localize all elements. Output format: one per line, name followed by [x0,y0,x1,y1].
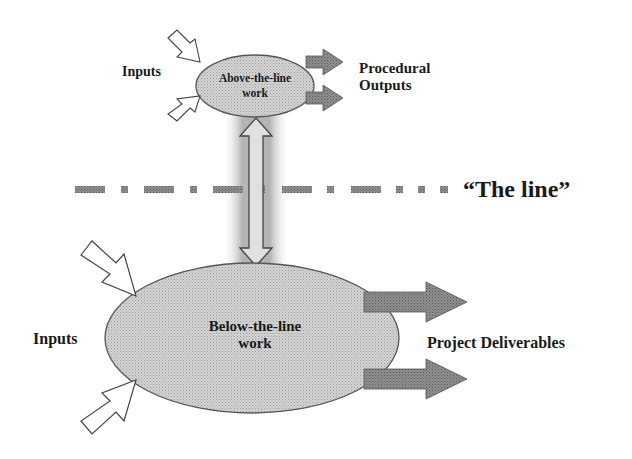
diagram-canvas [0,0,632,459]
below-the-line-label-line1: Below-the-line [180,318,330,335]
above-the-line-label: Above-the-line work [196,71,314,101]
procedural-outputs-label-line1: Procedural [359,60,430,77]
below-the-line-label-line2: work [180,335,330,352]
the-line-label: “The line” [463,176,570,203]
input-arrow-icon [81,241,136,296]
procedural-outputs-label-line2: Outputs [359,77,430,94]
project-deliverables-label: Project Deliverables [427,334,565,352]
input-arrow-icon [81,380,136,434]
input-arrow-icon [168,30,200,62]
above-the-line-label-line1: Above-the-line [196,71,314,86]
above-the-line-label-line2: work [196,86,314,101]
top-inputs-label: Inputs [122,64,161,80]
procedural-outputs-label: Procedural Outputs [359,60,430,94]
bottom-inputs-label: Inputs [33,330,77,348]
below-the-line-label: Below-the-line work [180,318,330,352]
